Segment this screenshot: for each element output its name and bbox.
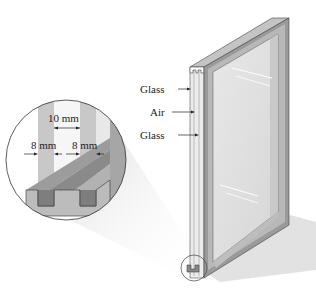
window-frame-edge	[190, 67, 204, 278]
dimension-gap-10mm: 10 mm	[48, 113, 79, 124]
dimension-pane-left-8mm: 8 mm	[31, 140, 56, 151]
double-pane-window-diagram: Glass Air Glass 10 mm 8 mm 8 mm	[0, 0, 316, 292]
label-glass-inner: Glass	[140, 130, 164, 141]
dimension-pane-right-8mm: 8 mm	[72, 140, 97, 151]
label-glass-outer: Glass	[140, 84, 164, 95]
label-air-gap: Air	[150, 107, 165, 118]
